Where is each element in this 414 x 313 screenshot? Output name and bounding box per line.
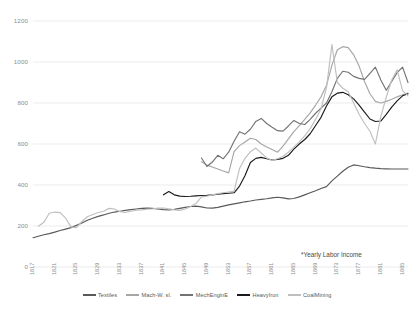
x-tick-label: 1873 <box>333 263 339 275</box>
x-tick-label: 1837 <box>138 263 144 275</box>
legend-item-label: Mach-W. sl. <box>142 292 172 298</box>
legend-swatch-icon <box>126 294 139 296</box>
legend-swatch-icon <box>180 294 193 296</box>
x-tick-label: 1833 <box>116 263 122 275</box>
x-tick-label: 1865 <box>290 263 296 275</box>
legend-item-mach-w-sl[interactable]: Mach-W. sl. <box>126 292 171 298</box>
legend-item-coalmining[interactable]: CoalMining <box>288 292 332 298</box>
legend-item-mechengine[interactable]: MechEnginE <box>180 292 228 298</box>
chart-legend: TextilesMach-W. sl.MechEnginEHeavyIronCo… <box>0 292 414 298</box>
y-tick-label: 800 <box>2 99 28 106</box>
legend-item-label: Textiles <box>98 292 117 298</box>
legend-swatch-icon <box>83 294 96 296</box>
x-tick-label: 1877 <box>355 263 361 275</box>
chart-annotation-note: *Yearly Labor Income <box>301 251 362 258</box>
series-line-heavyiron <box>163 92 408 196</box>
series-line-mach-w-sl <box>201 47 408 173</box>
legend-item-label: CoalMining <box>303 292 331 298</box>
x-tick-label: 1825 <box>72 263 78 275</box>
legend-swatch-icon <box>237 294 250 296</box>
y-tick-label: 0 <box>2 263 28 270</box>
y-tick-label: 400 <box>2 181 28 188</box>
x-tick-label: 1841 <box>159 263 165 275</box>
legend-item-textiles[interactable]: Textiles <box>83 292 118 298</box>
x-tick-label: 1829 <box>94 263 100 275</box>
legend-item-label: MechEnginE <box>196 292 228 298</box>
x-tick-label: 1869 <box>312 263 318 275</box>
x-tick-label: 1821 <box>51 263 57 275</box>
legend-item-heavyiron[interactable]: HeavyIron <box>237 292 278 298</box>
legend-item-label: HeavyIron <box>253 292 279 298</box>
gridlines <box>33 21 408 267</box>
x-tick-label: 1853 <box>225 263 231 275</box>
series-lines <box>33 45 408 238</box>
line-chart: 020040060080010001200 181718211825182918… <box>0 0 414 313</box>
series-line-coalmining <box>38 45 408 228</box>
series-line-mechengine <box>201 67 408 166</box>
x-tick-label: 1861 <box>268 263 274 275</box>
legend-swatch-icon <box>288 294 301 296</box>
x-tick-label: 1845 <box>181 263 187 275</box>
y-tick-label: 600 <box>2 140 28 147</box>
x-tick-label: 1817 <box>29 263 35 275</box>
y-tick-label: 1000 <box>2 58 28 65</box>
y-tick-label: 200 <box>2 222 28 229</box>
series-line-textiles <box>33 165 408 238</box>
x-tick-label: 1849 <box>203 263 209 275</box>
x-tick-label: 1885 <box>399 263 405 275</box>
y-tick-label: 1200 <box>2 17 28 24</box>
x-tick-label: 1881 <box>377 263 383 275</box>
x-tick-label: 1857 <box>246 263 252 275</box>
